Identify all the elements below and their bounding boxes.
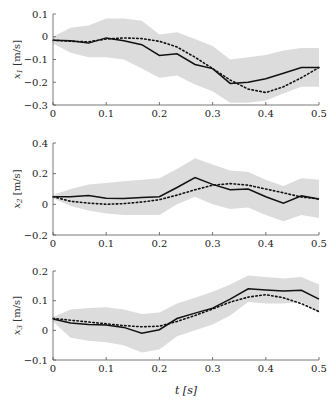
x-tick-label: 0.1 bbox=[98, 363, 114, 374]
figure: 00.10.20.30.40.50.10−0.1−0.2−0.3x1 [m/s]… bbox=[0, 0, 333, 402]
panel-x1: 00.10.20.30.40.50.10−0.1−0.2−0.3x1 [m/s] bbox=[11, 9, 327, 120]
x-tick-label: 0 bbox=[50, 363, 56, 374]
x-tick-label: 0.5 bbox=[311, 238, 327, 249]
y-axis-label: x3 [m/s] bbox=[11, 296, 24, 335]
x-tick-label: 0.5 bbox=[311, 108, 327, 119]
x-tick-label: 0.3 bbox=[205, 238, 221, 249]
x-tick-label: 0 bbox=[50, 238, 56, 249]
y-tick-label: −0.3 bbox=[24, 100, 48, 111]
y-tick-label: 0 bbox=[42, 199, 48, 210]
y-tick-label: 0.1 bbox=[32, 9, 48, 20]
y-tick-label: −0.2 bbox=[24, 230, 48, 241]
x-tick-label: 0.3 bbox=[205, 363, 221, 374]
y-tick-label: −0.1 bbox=[24, 54, 48, 65]
y-tick-label: 0 bbox=[42, 325, 48, 336]
x-tick-label: 0.2 bbox=[151, 238, 167, 249]
confidence-band bbox=[53, 158, 319, 221]
panel-x2: 00.10.20.30.40.50.40.20−0.2x2 [m/s] bbox=[11, 138, 327, 250]
x-tick-label: 0.3 bbox=[205, 108, 221, 119]
x-tick-label: 0.4 bbox=[258, 363, 274, 374]
y-tick-label: 0.4 bbox=[32, 138, 48, 149]
confidence-band bbox=[53, 19, 319, 103]
y-tick-label: 0 bbox=[42, 31, 48, 42]
y-tick-label: 0.1 bbox=[32, 295, 48, 306]
y-tick-label: 0.2 bbox=[32, 168, 48, 179]
y-axis-label: x1 [m/s] bbox=[11, 40, 24, 79]
x-axis-label: t [s] bbox=[175, 384, 198, 397]
x-tick-label: 0 bbox=[50, 108, 56, 119]
x-tick-label: 0.2 bbox=[151, 363, 167, 374]
y-axis-label: x2 [m/s] bbox=[11, 169, 24, 208]
x-tick-label: 0.1 bbox=[98, 238, 114, 249]
x-tick-label: 0.4 bbox=[258, 238, 274, 249]
x-tick-label: 0.5 bbox=[311, 363, 327, 374]
confidence-band bbox=[53, 275, 319, 352]
x-tick-label: 0.4 bbox=[258, 108, 274, 119]
y-tick-label: −0.2 bbox=[24, 77, 48, 88]
x-tick-label: 0.2 bbox=[151, 108, 167, 119]
panel-x3: 00.10.20.30.40.50.20.10−0.1x3 [m/s] bbox=[11, 266, 327, 375]
x-tick-label: 0.1 bbox=[98, 108, 114, 119]
y-tick-label: −0.1 bbox=[24, 355, 48, 366]
y-tick-label: 0.2 bbox=[32, 266, 48, 277]
